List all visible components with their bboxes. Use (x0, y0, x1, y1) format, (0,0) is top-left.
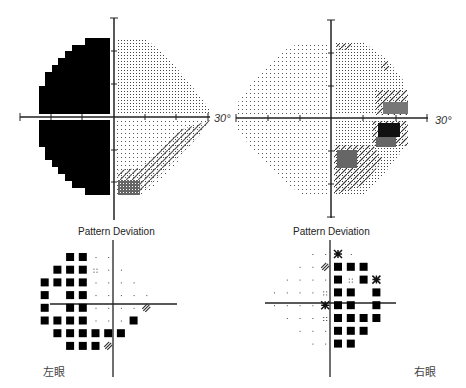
pd-cell (312, 254, 313, 255)
pd-cell (325, 331, 326, 332)
pd-cell (108, 282, 109, 283)
pd-cell (121, 308, 122, 309)
pd-cell (372, 314, 380, 322)
pd-cell (334, 340, 342, 348)
pd-cell (96, 282, 97, 283)
pd-cell (300, 292, 301, 293)
pd-cell (300, 305, 301, 306)
pd-cell (372, 301, 380, 309)
pd-cell (325, 344, 326, 345)
pd-cell (360, 276, 368, 284)
pd-cell (334, 301, 342, 309)
pd-cell (312, 305, 313, 306)
right-grayscale-plot: 30° (233, 0, 466, 225)
pd-cell (104, 342, 112, 350)
pd-cell (287, 318, 288, 319)
pd-cell (134, 282, 135, 283)
pd-cell (323, 317, 327, 321)
pd-cell (66, 342, 74, 350)
left-grayscale-plot: 30° (0, 0, 233, 225)
pd-cell (92, 342, 100, 350)
pd-cell (146, 295, 147, 296)
left-pattern-deviation-title: Pattern Deviation (78, 226, 155, 237)
pd-cell (66, 266, 74, 274)
pd-cell (372, 288, 380, 296)
pd-cell (334, 250, 342, 258)
pd-cell (325, 254, 326, 255)
pd-cell (79, 278, 87, 286)
pd-cell (108, 257, 109, 258)
pd-cell (349, 279, 353, 283)
pd-cell (312, 344, 313, 345)
pd-cell (312, 267, 313, 268)
pd-cell (66, 304, 74, 312)
left-axis-label: 30° (214, 112, 231, 124)
pd-cell (121, 321, 122, 322)
pd-cell (360, 263, 368, 271)
pd-cell (351, 254, 352, 255)
pd-cell (347, 288, 355, 296)
pd-cell (347, 340, 355, 348)
pd-cell (66, 253, 74, 261)
pd-cell (300, 331, 301, 332)
pd-cell (347, 314, 355, 322)
pd-cell (79, 291, 87, 299)
pd-cell (287, 292, 288, 293)
pd-cell (79, 266, 87, 274)
pd-cell (108, 295, 109, 296)
pd-cell (334, 288, 342, 296)
pd-cell (108, 308, 109, 309)
pd-cell (287, 280, 288, 281)
pd-cell (142, 304, 150, 312)
pd-cell (134, 308, 135, 309)
pd-cell (347, 263, 355, 271)
pd-cell (53, 266, 61, 274)
pd-cell (79, 342, 87, 350)
pd-cell (79, 304, 87, 312)
pd-cell (96, 295, 97, 296)
pd-cell (323, 291, 327, 295)
right-eye-label: 右眼 (414, 363, 436, 379)
right-axis-label: 30° (435, 114, 452, 126)
pd-cell (347, 301, 355, 309)
pd-cell (92, 329, 100, 337)
pd-cell (108, 270, 109, 271)
pd-cell (117, 329, 125, 337)
pd-cell (287, 305, 288, 306)
pd-cell (79, 253, 87, 261)
pd-cell (66, 329, 74, 337)
right-pattern-deviation-title: Pattern Deviation (293, 226, 370, 237)
pd-cell (347, 327, 355, 335)
pd-cell (321, 263, 329, 271)
pd-cell (274, 292, 275, 293)
pd-cell (312, 280, 313, 281)
pd-cell (53, 278, 61, 286)
pd-cell (372, 276, 380, 284)
pd-cell (41, 304, 49, 312)
right-pattern-deviation-grid (233, 240, 466, 380)
pd-cell (334, 276, 342, 284)
pd-cell (360, 314, 368, 322)
pd-cell (312, 331, 313, 332)
left-pd-svg (0, 240, 233, 380)
pd-cell (41, 278, 49, 286)
pd-cell (108, 321, 109, 322)
pd-cell (300, 267, 301, 268)
pd-cell (53, 317, 61, 325)
left-pattern-deviation-grid (0, 240, 233, 380)
pd-cell (130, 317, 138, 325)
pd-cell (96, 308, 97, 309)
pd-cell (300, 318, 301, 319)
pd-cell (134, 295, 135, 296)
pd-cell (66, 317, 74, 325)
pd-cell (79, 329, 87, 337)
pd-cell (41, 291, 49, 299)
pd-cell (66, 291, 74, 299)
pd-cell (360, 327, 368, 335)
pd-cell (94, 269, 98, 273)
pd-cell (53, 329, 61, 337)
pd-cell (121, 282, 122, 283)
right-pd-svg (233, 240, 466, 380)
pd-cell (96, 321, 97, 322)
pd-cell (312, 292, 313, 293)
